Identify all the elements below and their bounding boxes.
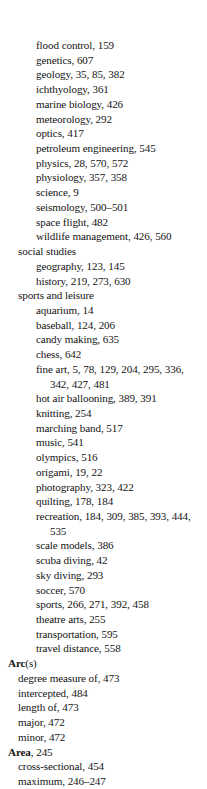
- index-entry: aquarium, 14: [0, 303, 205, 318]
- index-entry: science, 9: [0, 185, 205, 200]
- index-entry: baseball, 124, 206: [0, 318, 205, 333]
- index-entry: history, 219, 273, 630: [0, 274, 205, 289]
- index-entry: scuba diving, 42: [0, 553, 205, 568]
- index-entry: physiology, 357, 358: [0, 170, 205, 185]
- index-entry: origami, 19, 22: [0, 465, 205, 480]
- index-entry: physics, 28, 570, 572: [0, 156, 205, 171]
- index-entry: recreation, 184, 309, 385, 393, 444, 535: [0, 509, 205, 538]
- index-entry: music, 541: [0, 435, 205, 450]
- index-entry: meteorology, 292: [0, 112, 205, 127]
- index-headword: Area: [8, 746, 31, 758]
- index-entry: optics, 417: [0, 126, 205, 141]
- index-entry: seismology, 500–501: [0, 200, 205, 215]
- index-entry: genetics, 607: [0, 53, 205, 68]
- index-entry: sports and leisure: [0, 288, 205, 303]
- index-entry: candy making, 635: [0, 332, 205, 347]
- index-entry: social studies: [0, 244, 205, 259]
- index-entry: cross-sectional, 454: [0, 759, 205, 774]
- index-entry-locators: , 245: [31, 746, 53, 758]
- index-entry: geography, 123, 145: [0, 259, 205, 274]
- index-entry: marine biology, 426: [0, 97, 205, 112]
- index-entry: travel distance, 558: [0, 641, 205, 656]
- index-entry: olympics, 516: [0, 450, 205, 465]
- index-entry: major, 472: [0, 715, 205, 730]
- index-entry: scale models, 386: [0, 538, 205, 553]
- index-entry: knitting, 254: [0, 406, 205, 421]
- index-entry: chess, 642: [0, 347, 205, 362]
- index-entry: transportation, 595: [0, 627, 205, 642]
- index-entry: intercepted, 484: [0, 686, 205, 701]
- index-entry: sports, 266, 271, 392, 458: [0, 597, 205, 612]
- index-entry: space flight, 482: [0, 215, 205, 230]
- index-entry: fine art, 5, 78, 129, 204, 295, 336, 342…: [0, 362, 205, 391]
- index-entry: soccer, 570: [0, 583, 205, 598]
- index-entry: photography, 323, 422: [0, 480, 205, 495]
- index-entry: wildlife management, 426, 560: [0, 229, 205, 244]
- index-entry: hot air ballooning, 389, 391: [0, 391, 205, 406]
- index-entry: petroleum engineering, 545: [0, 141, 205, 156]
- index-entry: flood control, 159: [0, 38, 205, 53]
- index-entry: sky diving, 293: [0, 568, 205, 583]
- index-entry-locators: (s): [25, 657, 36, 669]
- index-entry: theatre arts, 255: [0, 612, 205, 627]
- index-entry: degree measure of, 473: [0, 671, 205, 686]
- index-entry: minor, 472: [0, 730, 205, 745]
- index-entry: quilting, 178, 184: [0, 494, 205, 509]
- index-headword: Arc: [8, 657, 25, 669]
- index-entry: length of, 473: [0, 700, 205, 715]
- index-entry-list: flood control, 159genetics, 607geology, …: [0, 38, 205, 789]
- index-entry: Arc(s): [0, 656, 205, 671]
- index-entry: maximum, 246–247: [0, 774, 205, 789]
- index-entry: ichthyology, 361: [0, 82, 205, 97]
- index-entry: Area, 245: [0, 745, 205, 760]
- index-entry: marching band, 517: [0, 421, 205, 436]
- index-entry: geology, 35, 85, 382: [0, 67, 205, 82]
